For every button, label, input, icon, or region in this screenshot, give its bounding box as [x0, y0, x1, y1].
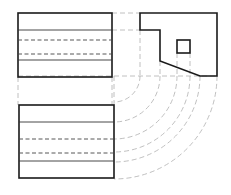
front-view-outline: [18, 13, 112, 77]
orthographic-drawing: [0, 0, 231, 195]
projection-arc: [114, 76, 140, 102]
side-view: [140, 13, 217, 76]
projection-arc: [114, 76, 217, 179]
projection-lines: [18, 13, 217, 179]
square-hole: [177, 40, 190, 53]
side-view-outline: [140, 13, 217, 76]
projection-arc: [114, 76, 160, 122]
top-view: [19, 105, 114, 178]
front-view: [18, 13, 112, 77]
projection-arc: [114, 76, 190, 152]
top-view-outline: [19, 105, 114, 178]
